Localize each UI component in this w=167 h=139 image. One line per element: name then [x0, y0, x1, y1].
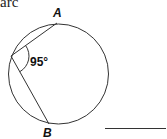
- circle-diagram: A B 95°: [0, 0, 167, 139]
- angle-arc: [20, 46, 29, 72]
- label-b: B: [43, 126, 52, 139]
- chord-to-a: [11, 23, 57, 56]
- angle-label: 95°: [30, 55, 48, 69]
- label-a: A: [52, 6, 62, 20]
- circle: [9, 24, 109, 124]
